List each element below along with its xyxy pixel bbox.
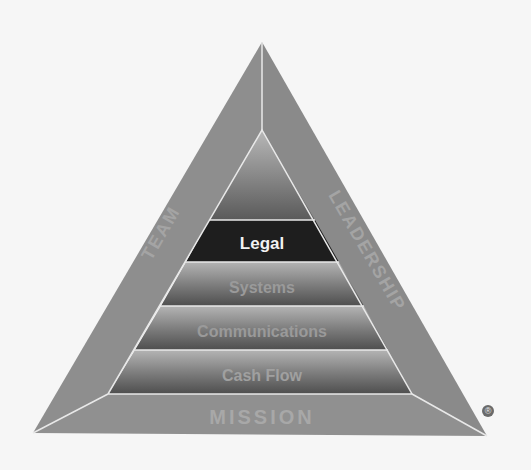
pyramid-diagram: Legal Systems Communications Cash Flow T… <box>0 0 531 470</box>
level-label-communications: Communications <box>197 323 327 340</box>
level-label-legal: Legal <box>240 234 284 253</box>
level-label-systems: Systems <box>229 279 295 296</box>
registered-trademark-icon: ® <box>482 405 494 417</box>
side-label-mission: MISSION <box>209 406 314 428</box>
level-label-cash-flow: Cash Flow <box>222 367 303 384</box>
